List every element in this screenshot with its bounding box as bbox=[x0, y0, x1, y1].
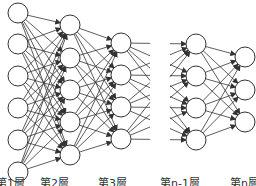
neuron-nodes bbox=[8, 3, 255, 182]
edge bbox=[25, 32, 63, 69]
layer-3-node bbox=[111, 65, 131, 85]
edge bbox=[129, 50, 150, 69]
layer-label: 第1層 bbox=[0, 178, 25, 186]
layer-label: 第3層 bbox=[98, 178, 127, 186]
layer-n-1-node bbox=[186, 130, 206, 150]
edge bbox=[80, 46, 112, 55]
layer-2-node bbox=[60, 80, 80, 100]
edge bbox=[170, 50, 188, 65]
edge bbox=[28, 15, 61, 23]
layer-n-1-node bbox=[186, 98, 206, 118]
layer-3-node bbox=[111, 97, 131, 117]
edge bbox=[129, 82, 150, 101]
edge bbox=[129, 115, 150, 133]
layer-2-node bbox=[60, 15, 80, 35]
edge bbox=[201, 66, 240, 132]
edge bbox=[205, 125, 235, 136]
edge bbox=[130, 63, 150, 71]
neural-network-diagram bbox=[0, 0, 256, 186]
edge bbox=[130, 79, 150, 88]
layer-1-node bbox=[8, 3, 28, 23]
edge bbox=[22, 67, 66, 163]
edge bbox=[22, 34, 66, 131]
layer-2-node bbox=[60, 112, 80, 132]
layer-1-node bbox=[8, 98, 28, 118]
edge bbox=[130, 47, 150, 56]
edge bbox=[25, 129, 63, 165]
edge bbox=[203, 64, 238, 101]
edge bbox=[79, 28, 111, 39]
edge bbox=[75, 83, 115, 146]
edge bbox=[203, 97, 238, 133]
connection-edges bbox=[21, 15, 240, 169]
edge bbox=[170, 117, 188, 133]
layer-1-node bbox=[8, 130, 28, 150]
layer-n-node bbox=[235, 112, 255, 132]
edge bbox=[77, 50, 113, 83]
layer-n-1-node bbox=[186, 34, 206, 54]
edge bbox=[170, 82, 188, 97]
layer-2-node bbox=[60, 145, 80, 165]
layer-1-node bbox=[8, 66, 28, 86]
edge bbox=[75, 51, 115, 113]
layer-3-node bbox=[111, 129, 131, 149]
edge bbox=[80, 142, 112, 152]
edge bbox=[170, 85, 188, 101]
edge bbox=[28, 158, 61, 169]
layer-label: 第n層 bbox=[230, 178, 256, 186]
layer-2-node bbox=[60, 48, 80, 68]
layer-3-node bbox=[111, 33, 131, 53]
edge bbox=[26, 20, 63, 52]
edge bbox=[206, 47, 236, 55]
layer-1-node bbox=[8, 34, 28, 54]
layer-n-node bbox=[235, 80, 255, 100]
layer-label: 第n-1層 bbox=[160, 178, 200, 186]
layer-n-1-node bbox=[186, 66, 206, 86]
layer-n-node bbox=[235, 47, 255, 67]
layer-label: 第2層 bbox=[40, 178, 69, 186]
